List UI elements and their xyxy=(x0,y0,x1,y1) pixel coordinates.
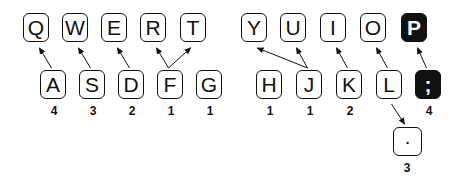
key-period: · xyxy=(393,127,422,156)
key-y: Y xyxy=(241,13,267,42)
arrow-F-to-R xyxy=(157,48,169,68)
key-e: E xyxy=(101,13,127,42)
finger-count-label: 3 xyxy=(79,104,107,118)
key-d: D xyxy=(118,70,144,99)
arrow-;-to-P xyxy=(418,48,427,68)
arrow-L-to-· xyxy=(392,104,405,124)
finger-count-label: 2 xyxy=(336,104,364,118)
key-semicolon: ; xyxy=(415,70,441,99)
arrow-K-to-I xyxy=(337,48,348,68)
key-a: A xyxy=(40,70,66,99)
finger-count-label: 3 xyxy=(393,161,421,175)
key-u: U xyxy=(280,13,306,42)
arrow-A-to-Q xyxy=(40,48,52,68)
finger-count-label: 4 xyxy=(415,104,443,118)
finger-count-label: 1 xyxy=(256,104,284,118)
key-k: K xyxy=(336,70,362,99)
key-o: O xyxy=(360,13,386,42)
finger-count-label: 1 xyxy=(296,104,324,118)
key-h: H xyxy=(256,70,282,99)
arrow-J-to-Y xyxy=(258,48,308,68)
key-i: I xyxy=(320,13,346,42)
key-f: F xyxy=(157,70,183,99)
key-w: W xyxy=(62,13,88,42)
finger-count-label: 1 xyxy=(196,104,224,118)
finger-count-label: 1 xyxy=(157,104,185,118)
arrow-F-to-T xyxy=(169,48,191,68)
arrow-L-to-O xyxy=(377,48,388,68)
key-q: Q xyxy=(23,13,49,42)
finger-count-label: 4 xyxy=(40,104,68,118)
key-p: P xyxy=(401,13,427,42)
key-t: T xyxy=(180,13,206,42)
key-r: R xyxy=(140,13,166,42)
arrow-D-to-E xyxy=(118,48,130,68)
arrow-S-to-W xyxy=(79,48,91,68)
key-g: G xyxy=(196,70,222,99)
key-s: S xyxy=(79,70,105,99)
finger-count-label: 2 xyxy=(118,104,146,118)
arrow-J-to-U xyxy=(297,48,308,68)
key-j: J xyxy=(296,70,322,99)
key-l: L xyxy=(376,70,402,99)
